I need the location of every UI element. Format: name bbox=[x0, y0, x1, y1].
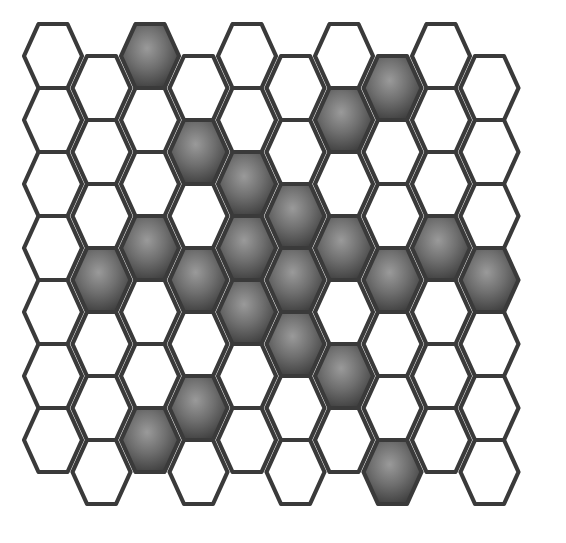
hex-cell-empty bbox=[315, 24, 373, 88]
hex-cell-empty bbox=[461, 184, 519, 248]
hex-cell-empty bbox=[315, 280, 373, 344]
hex-cell-filled bbox=[267, 312, 325, 376]
hexagon-lattice-canvas bbox=[0, 0, 566, 543]
hex-cell-empty bbox=[24, 216, 82, 280]
hex-cell-empty bbox=[267, 120, 325, 184]
hex-cell-empty bbox=[412, 152, 470, 216]
hex-cell-filled bbox=[412, 216, 470, 280]
hex-cell-filled bbox=[121, 24, 179, 88]
hex-cell-empty bbox=[218, 24, 276, 88]
hex-cell-empty bbox=[364, 120, 422, 184]
hex-cell-filled bbox=[364, 440, 422, 504]
hex-cell-empty bbox=[121, 280, 179, 344]
hex-cell-empty bbox=[24, 152, 82, 216]
hex-cell-filled bbox=[461, 248, 519, 312]
hex-cell-empty bbox=[461, 440, 519, 504]
hex-cell-empty bbox=[267, 440, 325, 504]
hex-cell-empty bbox=[218, 344, 276, 408]
hexagon-lattice-figure bbox=[0, 0, 566, 543]
hex-cell-empty bbox=[121, 88, 179, 152]
hex-cell-empty bbox=[24, 88, 82, 152]
hex-cell-empty bbox=[24, 24, 82, 88]
hex-cell-empty bbox=[73, 376, 131, 440]
hex-cell-empty bbox=[412, 88, 470, 152]
hex-cell-empty bbox=[461, 376, 519, 440]
hex-cell-empty bbox=[170, 440, 228, 504]
hex-cell-empty bbox=[412, 408, 470, 472]
hex-cell-filled bbox=[267, 248, 325, 312]
hex-cell-empty bbox=[24, 280, 82, 344]
hex-cell-empty bbox=[73, 56, 131, 120]
hex-cell-empty bbox=[315, 152, 373, 216]
hex-cell-empty bbox=[218, 408, 276, 472]
hex-cell-filled bbox=[315, 88, 373, 152]
hex-cell-filled bbox=[73, 248, 131, 312]
hex-cell-filled bbox=[315, 216, 373, 280]
hex-cell-filled bbox=[170, 120, 228, 184]
hex-cell-filled bbox=[121, 408, 179, 472]
hex-cell-empty bbox=[461, 312, 519, 376]
hex-cell-filled bbox=[218, 152, 276, 216]
hex-cell-empty bbox=[267, 56, 325, 120]
hex-cell-empty bbox=[315, 408, 373, 472]
hex-cell-filled bbox=[121, 216, 179, 280]
hex-cell-empty bbox=[218, 88, 276, 152]
hex-cell-filled bbox=[218, 280, 276, 344]
hex-cell-empty bbox=[121, 152, 179, 216]
hex-cell-empty bbox=[412, 344, 470, 408]
hex-cell-filled bbox=[267, 184, 325, 248]
hex-cell-filled bbox=[170, 248, 228, 312]
hex-cell-empty bbox=[412, 280, 470, 344]
hex-cell-empty bbox=[461, 120, 519, 184]
hex-cell-empty bbox=[170, 56, 228, 120]
hex-cell-empty bbox=[364, 376, 422, 440]
hex-cell-empty bbox=[73, 440, 131, 504]
hex-cell-empty bbox=[73, 312, 131, 376]
hex-cell-empty bbox=[170, 312, 228, 376]
hex-cell-empty bbox=[24, 344, 82, 408]
hex-cell-filled bbox=[315, 344, 373, 408]
hex-cell-empty bbox=[267, 376, 325, 440]
hex-cell-empty bbox=[73, 184, 131, 248]
hex-cell-empty bbox=[412, 24, 470, 88]
hex-cell-filled bbox=[218, 216, 276, 280]
hex-cell-empty bbox=[364, 312, 422, 376]
hex-cell-empty bbox=[364, 184, 422, 248]
hex-cell-filled bbox=[170, 376, 228, 440]
hex-cell-empty bbox=[461, 56, 519, 120]
hex-cell-filled bbox=[364, 56, 422, 120]
hex-cell-empty bbox=[170, 184, 228, 248]
hex-cell-empty bbox=[24, 408, 82, 472]
hex-cell-empty bbox=[121, 344, 179, 408]
hex-cell-empty bbox=[73, 120, 131, 184]
hex-cell-filled bbox=[364, 248, 422, 312]
